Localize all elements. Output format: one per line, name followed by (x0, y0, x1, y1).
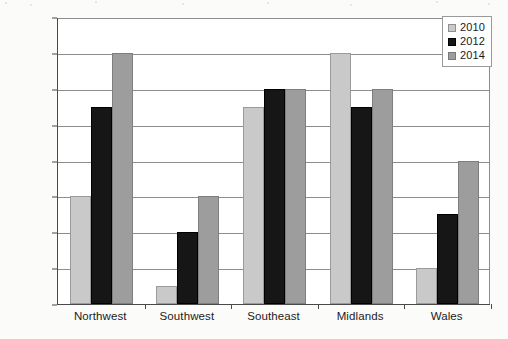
x-tick-label: Northwest (74, 310, 127, 322)
x-tick-mark (231, 304, 232, 309)
x-tick-label: Wales (431, 310, 463, 322)
bar (372, 89, 393, 304)
bar-group (231, 18, 318, 304)
bar (112, 53, 133, 304)
bar-group (58, 18, 145, 304)
legend-label: 2014 (460, 50, 485, 61)
bar (416, 268, 437, 304)
x-tick-mark (491, 304, 492, 309)
legend-swatch (448, 24, 456, 32)
plot-area (57, 18, 490, 305)
bar (177, 232, 198, 304)
bar (437, 214, 458, 304)
x-tick-label: Southeast (247, 310, 300, 322)
bar-chart: 010,00020,00030,00040,00050,00060,00070,… (0, 0, 508, 339)
x-tick-label: Southwest (160, 310, 215, 322)
bar (91, 107, 112, 304)
legend-label: 2012 (460, 36, 485, 47)
bar (198, 196, 219, 304)
x-tick-mark (318, 304, 319, 309)
bar (458, 161, 479, 305)
bar (330, 53, 351, 304)
bar (285, 89, 306, 304)
legend-swatch (448, 38, 456, 46)
bar (351, 107, 372, 304)
scan-noise-texture (0, 0, 508, 8)
chart-legend: 201020122014 (442, 16, 492, 67)
x-tick-label: Midlands (337, 310, 384, 322)
bar (243, 107, 264, 304)
x-tick-mark (145, 304, 146, 309)
legend-item: 2012 (448, 35, 487, 48)
legend-label: 2010 (460, 22, 485, 33)
bar (156, 286, 177, 304)
legend-item: 2014 (448, 49, 487, 62)
x-tick-mark (404, 304, 405, 309)
bars-layer (58, 18, 490, 304)
legend-item: 2010 (448, 21, 487, 34)
legend-swatch (448, 52, 456, 60)
bar (264, 89, 285, 304)
bar (70, 196, 91, 304)
bar-group (145, 18, 232, 304)
bar-group (318, 18, 405, 304)
